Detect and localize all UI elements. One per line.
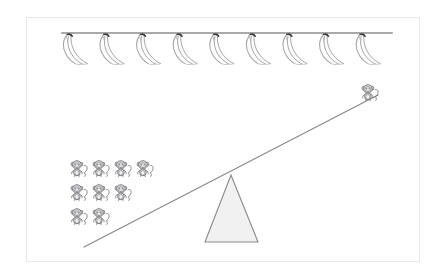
banana-bunch [320,34,344,65]
banana-bunch [356,34,380,65]
monkey [115,185,131,201]
scene-vector-layer [0,0,445,277]
monkey-cluster-left [71,161,153,225]
monkey [93,185,109,201]
banana-row [64,34,381,65]
banana-bunch [137,34,161,65]
monkey [93,209,109,225]
fulcrum-triangle [205,175,258,242]
banana-bunch [173,34,197,65]
monkey [93,161,109,177]
monkey [137,161,153,177]
monkey [115,161,131,177]
banana-bunch [247,34,271,65]
banana-bunch [64,34,88,65]
monkey [71,185,87,201]
scene-canvas: Balance scale puzzle: bananas and monkey… [0,0,445,277]
banana-bunch [283,34,307,65]
monkey [71,209,87,225]
monkey [71,161,87,177]
banana-bunch [100,34,124,65]
monkey [362,85,378,101]
monkey-on-lever-right [362,85,378,101]
banana-bunch [210,34,234,65]
